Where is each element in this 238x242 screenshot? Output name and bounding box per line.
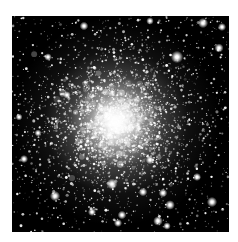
star-cluster-image <box>0 0 238 242</box>
page <box>0 0 238 242</box>
photo-frame <box>0 0 238 242</box>
